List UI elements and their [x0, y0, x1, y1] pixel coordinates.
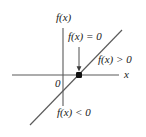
- origin-label: 0: [55, 78, 61, 89]
- root-point-marker: [76, 72, 82, 78]
- zero-annotation-label: f(x) = 0: [68, 31, 102, 42]
- y-axis-label: f(x): [56, 12, 71, 23]
- function-sign-diagram: f(x) x 0 f(x) = 0 f(x) > 0 f(x) < 0: [0, 0, 146, 137]
- zero-pointer-arrow: [77, 47, 82, 72]
- x-axis-label: x: [124, 69, 129, 80]
- negative-region-label: f(x) < 0: [57, 107, 91, 118]
- positive-region-label: f(x) > 0: [98, 54, 132, 65]
